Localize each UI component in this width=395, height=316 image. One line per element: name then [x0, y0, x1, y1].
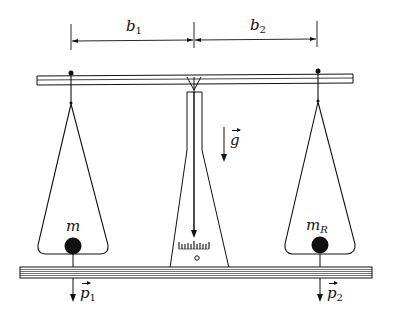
label-b2: b2 — [250, 18, 266, 35]
label-mass-mR: mR — [306, 218, 328, 235]
left-mass-ball — [65, 238, 82, 255]
label-b1: b1 — [126, 19, 142, 36]
balance-beam — [37, 74, 353, 85]
balance-diagram — [0, 0, 395, 316]
label-gravity: g — [230, 133, 240, 148]
gravity-arrow — [221, 127, 227, 162]
stand — [170, 92, 229, 268]
base-platform — [20, 267, 372, 278]
dimension-lines — [71, 21, 317, 50]
label-mass-m: m — [66, 219, 80, 234]
right-mass-ball — [312, 237, 329, 254]
label-p2: p2 — [327, 286, 343, 303]
label-p1: p1 — [80, 286, 96, 303]
